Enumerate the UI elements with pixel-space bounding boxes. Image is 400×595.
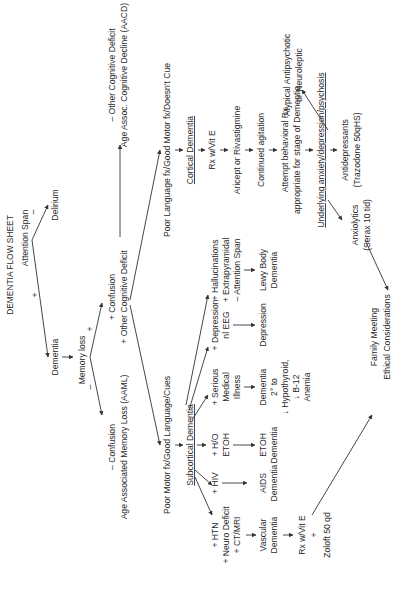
serious-line3: Illness xyxy=(232,375,242,399)
pos-confusion-line1: + Confusion xyxy=(107,274,117,320)
rx-vit-e-node: Rx w/Vit E xyxy=(207,130,217,170)
dementia-flow-sheet-diagram: DEMENTIA FLOW SHEET Attention Span – Del… xyxy=(0,0,400,595)
arrow-subcortical-to-family xyxy=(312,415,372,515)
diagram-title: DEMENTIA FLOW SHEET xyxy=(5,215,15,315)
attempt-behavioral-line2: appropriate for stage of Dementia xyxy=(292,86,302,214)
dementia-node: Dementia xyxy=(50,338,60,375)
antidepressants-line1: Antidepressants xyxy=(340,119,350,181)
lewy-line1: Lewy Body xyxy=(258,248,268,291)
serious-line1: + Serious xyxy=(210,369,220,406)
etoh-line1: + H/O xyxy=(210,433,220,456)
dementia-2nd-line5: Anemia xyxy=(302,372,312,401)
atypical-line2: or Neuroleptic xyxy=(294,48,304,102)
aaml-node: Age Associated Memory Loss (AAML) xyxy=(119,375,129,520)
vascular-rx-line1: Rx w/Vit E xyxy=(297,515,307,555)
antidepressants-line2: (Trazodone 50qHS) xyxy=(352,112,362,187)
lewy-line2: Dementia xyxy=(269,251,279,288)
poor-motor-node: Poor Motor fx/Good Language/Cues xyxy=(162,376,172,514)
serious-line2: Medical xyxy=(221,372,231,402)
aids-line1: AIDS xyxy=(258,473,268,493)
anxiolytics-line2: (Serax 10 tid) xyxy=(362,199,372,251)
etoh-dementia-line2: Dementia xyxy=(269,426,279,463)
plus-label-2: + xyxy=(85,326,95,331)
vascular-rx-line3: Zoloft 50 qd xyxy=(322,512,332,558)
subcortical-dementia-node: Subcortical Dementia xyxy=(185,404,195,486)
family-meeting-line1: Family Meeting xyxy=(369,308,379,366)
aids-line2: Dementia xyxy=(269,464,279,501)
dementia-2nd-line1: Dementia xyxy=(258,368,268,405)
attempt-behavioral-line1: Attempt behavioral Rx xyxy=(280,107,290,192)
arrow-to-poor-language xyxy=(130,150,160,300)
htn-line3: + CT/MRI xyxy=(232,516,242,553)
underlying-anxiety-node: Underlying anxiety/depression/psychosis xyxy=(316,72,326,227)
attention-span-node: Attention Span xyxy=(20,210,30,267)
aacd-node: Age Assoc. Cognitive Decline (AACD) xyxy=(119,3,129,147)
dementia-2nd-line3: ↓ Hypothyroid, xyxy=(280,360,290,415)
neg-other-deficit-line1: – Other Cognitive Deficit xyxy=(107,28,117,122)
neg-confusion-line1: – Confusion xyxy=(107,424,117,470)
minus-label-2: – xyxy=(85,384,95,389)
aricept-node: Aricept or Rivastigmine xyxy=(232,106,242,195)
depression-in-line1: + Depression xyxy=(210,299,220,350)
poor-language-node: Poor Language fx/Good Motor fx/Doesn't C… xyxy=(162,63,172,237)
dementia-2nd-line4: ↓ B-12 xyxy=(291,374,301,399)
dementia-2nd-line2: 2° to xyxy=(269,378,279,396)
hiv-node: + HIV xyxy=(210,472,220,494)
htn-line2: + Neuro Deficit xyxy=(221,506,231,564)
anxiolytics-line1: Anxiolytics xyxy=(350,205,360,246)
minus-label: – xyxy=(28,209,38,214)
plus-label: + xyxy=(30,292,40,297)
arrow-to-poor-motor xyxy=(130,305,160,445)
etoh-line2: ETOH xyxy=(221,433,231,457)
arrow-to-hallucinations xyxy=(186,295,208,405)
htn-line1: + HTN xyxy=(210,522,220,547)
depression-node: Depression xyxy=(258,303,268,347)
vascular-line1: Vascular xyxy=(258,518,268,551)
family-meeting-line2: Ethical Considerations xyxy=(382,294,392,380)
vascular-line2: Dementia xyxy=(269,516,279,553)
depression-in-line2: nl EEG xyxy=(221,311,231,339)
lewy-in-line2: + Extrapyramidal xyxy=(221,238,231,303)
lewy-in-line1: + Hallucinations xyxy=(210,240,220,301)
arrow-to-anxiolytics xyxy=(328,200,342,220)
continued-agitation-node: Continued agitation xyxy=(256,113,266,187)
delirium-node: Delirium xyxy=(50,189,60,221)
arrow-anxiolytics-to-family xyxy=(365,240,388,290)
arrow-to-depression xyxy=(189,347,208,410)
memory-loss-node: Memory loss xyxy=(77,336,87,385)
etoh-dementia-line1: ETOH xyxy=(258,433,268,457)
lewy-in-line3: – Attention Span xyxy=(232,238,242,301)
atypical-line1: Atypical Antipsychotic xyxy=(282,33,292,116)
pos-confusion-line2: + Other Cognitive Deficit xyxy=(119,250,129,344)
cortical-dementia-node: Cortical Dementia xyxy=(185,116,195,185)
vascular-rx-line2: + xyxy=(309,532,319,537)
